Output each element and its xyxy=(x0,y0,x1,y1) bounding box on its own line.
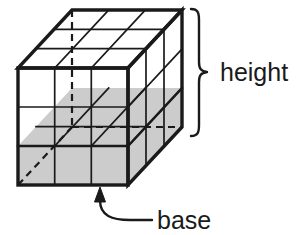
height-brace xyxy=(191,9,207,136)
base-leader-line xyxy=(100,200,152,220)
height-label: height xyxy=(220,58,288,86)
base-front-shade xyxy=(18,146,128,185)
prism-diagram: height base xyxy=(0,0,304,235)
base-label: base xyxy=(157,206,211,234)
base-arrowhead-icon xyxy=(95,187,106,202)
geometry-figure: height base xyxy=(0,0,304,235)
base-leader xyxy=(95,187,153,220)
height-brace-path xyxy=(191,9,207,136)
